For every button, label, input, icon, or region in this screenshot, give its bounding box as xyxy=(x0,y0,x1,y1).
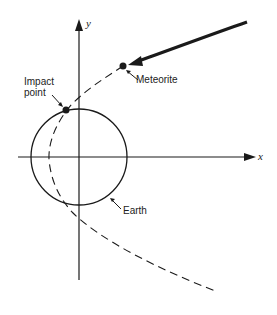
impact-label-line1: Impact xyxy=(24,76,54,87)
impact-label-line2: point xyxy=(24,87,46,98)
impact-point-dot xyxy=(63,107,70,114)
earth-leader-arrow-icon xyxy=(110,198,115,202)
meteorite-incoming-path xyxy=(136,22,247,62)
y-axis-arrow-icon xyxy=(75,19,83,31)
earth-label: Earth xyxy=(123,205,147,216)
trajectory-path xyxy=(49,66,218,292)
meteorite-dot xyxy=(120,63,127,70)
diagram: y x Meteorite Impact point Earth xyxy=(0,0,277,315)
meteorite-arrow-icon xyxy=(128,56,143,66)
meteorite-label: Meteorite xyxy=(136,74,178,85)
x-axis-arrow-icon xyxy=(244,153,256,161)
y-axis-label: y xyxy=(86,18,91,29)
diagram-graphics xyxy=(0,0,277,315)
x-axis-label: x xyxy=(258,151,263,162)
